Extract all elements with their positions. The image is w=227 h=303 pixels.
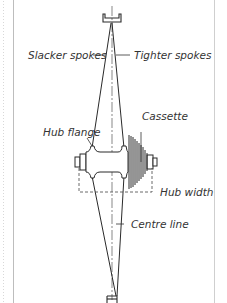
axle-end-left	[75, 157, 80, 167]
diagram-frame: Slacker spokes Tighter spokes Cassette H…	[0, 0, 227, 303]
cassette-cogs	[129, 135, 147, 189]
locknut-left	[80, 154, 86, 170]
spoke-bottom-left	[92, 176, 116, 296]
label-hub-width: Hub width	[160, 186, 214, 198]
label-tighter-spokes: Tighter spokes	[134, 49, 211, 61]
hub-shell	[86, 146, 128, 178]
axle-end-right	[153, 158, 157, 166]
leader-hub-flange	[87, 138, 92, 146]
wheel-dish-diagram	[0, 0, 227, 303]
locknut-right	[147, 155, 153, 169]
label-hub-flange: Hub flange	[43, 126, 101, 138]
label-centre-line: Centre line	[131, 218, 189, 230]
label-cassette: Cassette	[142, 110, 188, 122]
label-slacker-spokes: Slacker spokes	[28, 49, 107, 61]
spoke-bottom-right	[117, 176, 124, 296]
spoke-top-right	[112, 23, 124, 148]
